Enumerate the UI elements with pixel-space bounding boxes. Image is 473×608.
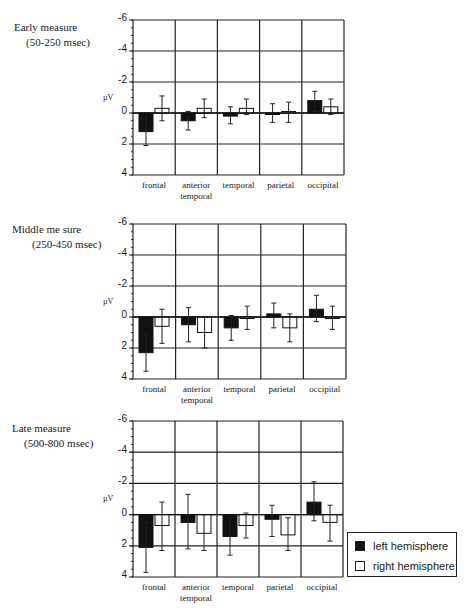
legend-item-right: right hemisphere [355, 560, 455, 572]
legend: left hemisphere right hemisphere [347, 532, 457, 577]
y-tick-label: 4 [113, 371, 127, 382]
y-tick-label: -2 [113, 475, 127, 486]
y-tick-label: 4 [113, 569, 127, 580]
x-category-label: anteriortemporal [174, 582, 218, 604]
y-tick-label: 0 [113, 309, 127, 320]
empty-square-icon [355, 561, 365, 571]
y-axis-label: µV [103, 494, 113, 503]
legend-label: right hemisphere [373, 560, 455, 572]
y-axis-label: µV [103, 93, 113, 102]
y-tick-label: 0 [113, 105, 127, 116]
x-category-label: parietal [259, 180, 303, 191]
filled-square-icon [355, 541, 365, 551]
y-tick-label: -2 [113, 278, 127, 289]
x-category-label: occipital [301, 180, 345, 191]
y-tick-label: -6 [113, 413, 127, 424]
y-tick-label: -4 [113, 247, 127, 258]
x-category-label: occipital [303, 384, 347, 395]
x-category-label: frontal [132, 180, 176, 191]
chart-canvas [0, 0, 473, 608]
y-tick-label: -4 [113, 43, 127, 54]
legend-item-left: left hemisphere [355, 540, 448, 552]
y-tick-label: 2 [113, 538, 127, 549]
y-tick-label: -4 [113, 444, 127, 455]
y-tick-label: -6 [113, 12, 127, 23]
x-category-label: anteriortemporal [174, 180, 218, 202]
x-category-label: temporal [216, 582, 260, 593]
x-category-label: frontal [132, 582, 176, 593]
x-category-label: frontal [132, 384, 176, 395]
y-tick-label: 4 [113, 167, 127, 178]
x-category-label: temporal [217, 180, 261, 191]
x-category-label: temporal [218, 384, 262, 395]
x-category-label: parietal [260, 384, 304, 395]
x-category-label: parietal [258, 582, 302, 593]
y-tick-label: 0 [113, 507, 127, 518]
y-tick-label: 2 [113, 340, 127, 351]
x-category-label: anteriortemporal [175, 384, 219, 406]
x-category-label: occipital [300, 582, 344, 593]
y-axis-label: µV [103, 297, 113, 306]
y-tick-label: -2 [113, 74, 127, 85]
legend-label: left hemisphere [373, 540, 448, 552]
y-tick-label: 2 [113, 136, 127, 147]
y-tick-label: -6 [113, 216, 127, 227]
